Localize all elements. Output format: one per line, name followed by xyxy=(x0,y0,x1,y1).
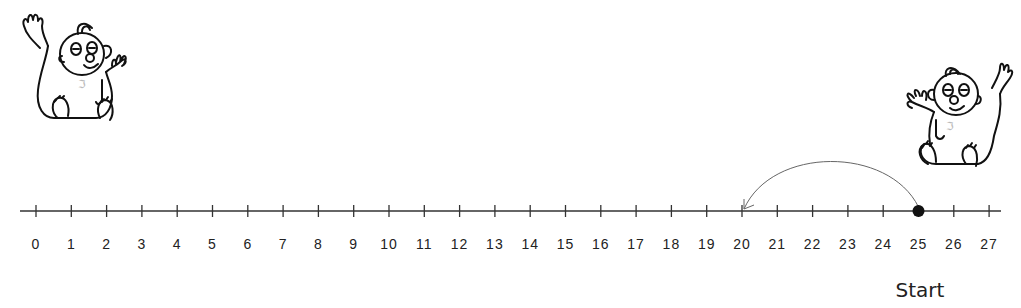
tick-label: 20 xyxy=(733,236,751,252)
number-line-diagram: ℑ ℑ xyxy=(0,0,1021,308)
tick-label: 7 xyxy=(279,236,288,252)
tick-label: 3 xyxy=(137,236,146,252)
number-line xyxy=(0,0,1021,308)
tick-label: 27 xyxy=(980,236,998,252)
tick-label: 21 xyxy=(769,236,787,252)
tick-label: 11 xyxy=(416,236,433,252)
tick-label: 9 xyxy=(349,236,358,252)
tick-label: 8 xyxy=(314,236,323,252)
tick-label: 1 xyxy=(67,236,76,252)
tick-label: 23 xyxy=(839,236,857,252)
jump-arc xyxy=(744,161,919,209)
tick-label: 6 xyxy=(243,236,252,252)
tick-label: 17 xyxy=(627,236,645,252)
tick-label: 2 xyxy=(102,236,111,252)
tick-label: 24 xyxy=(874,236,892,252)
tick-label: 12 xyxy=(451,236,469,252)
tick-label: 0 xyxy=(32,236,41,252)
tick-label: 5 xyxy=(208,236,217,252)
tick-label: 14 xyxy=(521,236,539,252)
tick-label: 22 xyxy=(804,236,822,252)
tick-label: 25 xyxy=(910,236,928,252)
tick-label: 18 xyxy=(663,236,681,252)
tick-label: 19 xyxy=(698,236,716,252)
start-label: Start xyxy=(896,278,945,302)
tick-label: 13 xyxy=(486,236,504,252)
tick-label: 4 xyxy=(173,236,182,252)
tick-label: 26 xyxy=(945,236,963,252)
tick-label: 16 xyxy=(592,236,610,252)
tick-label: 15 xyxy=(557,236,575,252)
start-point-dot xyxy=(913,205,925,217)
tick-label: 10 xyxy=(380,236,398,252)
